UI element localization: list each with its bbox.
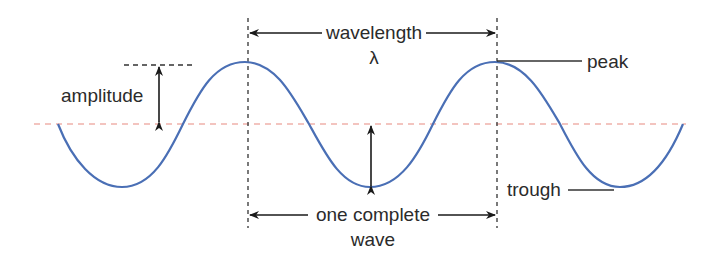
wavelength-label: wavelength — [326, 23, 422, 42]
lambda-symbol: λ — [369, 48, 379, 67]
amplitude-label: amplitude — [61, 86, 143, 105]
one-complete-label: one complete — [316, 205, 430, 224]
trough-label: trough — [507, 180, 561, 199]
peak-label: peak — [587, 52, 628, 71]
wave-label: wave — [351, 230, 395, 249]
